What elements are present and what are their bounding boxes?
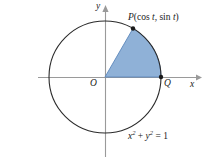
equation-right-side: 1 [163,131,168,141]
unit-circle-figure: P(cos t, sin t) O Q x y x2 + y2 = 1 [0,0,205,160]
equation-equals-sign: = [153,131,163,141]
x-axis-label: x [190,80,194,90]
point-q-marker [159,75,163,79]
y-axis [102,5,108,157]
unit-circle-diagram [0,0,205,160]
y-axis-arrowhead-icon [102,5,108,12]
point-p-marker [131,26,135,30]
circle-equation-label: x2 + y2 = 1 [128,130,168,142]
shaded-sector [105,29,161,78]
y-axis-label: y [96,2,100,12]
x-axis-arrowhead-icon [196,74,202,80]
equation-plus-sign: + [135,131,145,141]
point-q-label: Q [164,79,171,89]
point-p-coordinates: (cos t, sin t) [134,12,179,22]
origin-label: O [90,79,97,89]
point-p-label: P(cos t, sin t) [128,13,179,23]
